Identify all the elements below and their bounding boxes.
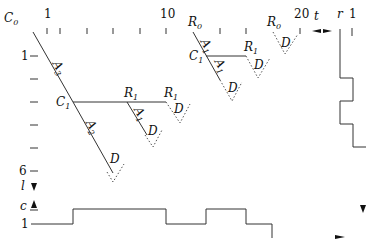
label-D: D — [253, 58, 264, 72]
arrow-right-icon — [312, 29, 321, 33]
node-R1-b: R1 — [163, 86, 178, 102]
top-label-10: 10 — [160, 7, 175, 21]
label-D: D — [147, 124, 158, 138]
right-label-1: 1 — [349, 7, 357, 21]
left-label-1-bottom: 1 — [21, 217, 29, 231]
edge-A2 — [73, 102, 113, 173]
edge-label-A2: A2 — [81, 116, 102, 137]
top-ticks — [47, 28, 300, 34]
arrow-left-icon — [323, 29, 332, 33]
label-D: D — [173, 102, 184, 116]
left-label-1: 1 — [21, 49, 29, 63]
left-label-l: l — [21, 179, 25, 193]
arrow-down-icon — [360, 205, 366, 213]
top-label-1: 1 — [44, 7, 52, 21]
label-D: D — [109, 152, 120, 166]
node-C1-left: C1 — [56, 95, 70, 111]
edge-label-A1-b: A1 — [195, 35, 216, 56]
right-step-plot — [340, 29, 366, 147]
diagram-canvas: 1 10 20 t r 1 1 6 l c 1 C0 A3 C1 A2 D — [0, 0, 383, 251]
label-D: D — [227, 81, 238, 95]
label-D: D — [280, 36, 291, 50]
arrow-down-icon — [31, 183, 37, 191]
top-label-20: 20 — [294, 7, 309, 21]
node-C0: C0 — [4, 11, 18, 27]
top-label-t: t — [314, 9, 319, 23]
bottom-step-plot — [31, 209, 272, 238]
node-R1-c: R1 — [243, 40, 258, 56]
right-label-r: r — [337, 7, 344, 21]
node-R0-b: R0 — [266, 15, 281, 31]
left-label-6: 6 — [19, 164, 27, 178]
left-label-c: c — [20, 199, 27, 213]
edge-label-A1-a: A1 — [129, 103, 150, 124]
arrow-right-icon — [335, 235, 345, 239]
edge-label-A3: A3 — [47, 57, 68, 78]
node-R0-a: R0 — [187, 15, 202, 31]
edge-label-A1-c: A1 — [209, 55, 230, 76]
arrow-up-icon — [31, 200, 37, 208]
node-R1-a: R1 — [123, 86, 138, 102]
